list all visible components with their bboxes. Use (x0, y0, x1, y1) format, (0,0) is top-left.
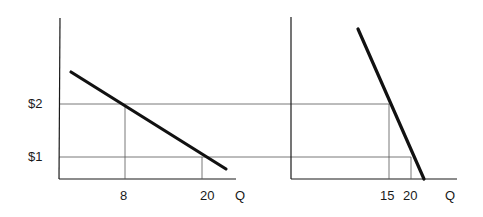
left-x-axis-title: Q (235, 188, 245, 203)
left-y-axis (59, 18, 60, 179)
left-y-label-2: $2 (28, 96, 42, 111)
left-x-label-8: 8 (120, 188, 127, 203)
left-y-label-1: $1 (28, 149, 42, 164)
chart-canvas: $2 $1 8 20 Q 15 20 Q (0, 0, 483, 217)
right-x-label-20: 20 (403, 188, 417, 203)
left-x-label-20: 20 (200, 188, 214, 203)
left-panel: $2 $1 8 20 Q (28, 18, 245, 203)
right-x-axis-title: Q (445, 188, 455, 203)
left-demand-curve (71, 72, 226, 169)
right-x-label-15: 15 (380, 188, 394, 203)
right-panel: 15 20 Q (291, 17, 457, 203)
